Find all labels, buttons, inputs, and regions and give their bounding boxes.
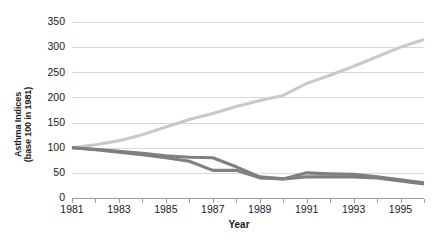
data-series <box>72 40 424 184</box>
y-tick-label: 0 <box>59 191 65 203</box>
x-tick-label: 1987 <box>201 203 225 215</box>
x-tick-label: 1995 <box>389 203 413 215</box>
y-tick-label: 200 <box>47 91 65 103</box>
x-axis-title: Year <box>228 219 249 230</box>
series-line-declining-index-b <box>72 148 424 183</box>
x-axis-tick-labels: 19811983198519871989199119931995 <box>60 203 412 215</box>
y-axis-tick-labels: 050100150200250300350 <box>47 15 65 203</box>
y-tick-label: 100 <box>47 141 65 153</box>
y-tick-label: 150 <box>47 116 65 128</box>
x-tick-label: 1985 <box>154 203 178 215</box>
x-tick-label: 1989 <box>248 203 272 215</box>
y-tick-label: 250 <box>47 66 65 78</box>
x-tick-label: 1981 <box>60 203 84 215</box>
plot-area: 050100150200250300350 198119831985198719… <box>0 0 438 249</box>
y-tick-label: 300 <box>47 40 65 52</box>
x-tick-label: 1991 <box>295 203 319 215</box>
asthma-indices-chart: Asthma Indices (base 100 in 1981) 050100… <box>0 0 438 249</box>
x-tick-label: 1993 <box>342 203 366 215</box>
x-tick-label: 1983 <box>107 203 131 215</box>
y-tick-label: 50 <box>53 166 65 178</box>
y-tick-label: 350 <box>47 15 65 27</box>
series-line-rising-index <box>72 40 424 148</box>
